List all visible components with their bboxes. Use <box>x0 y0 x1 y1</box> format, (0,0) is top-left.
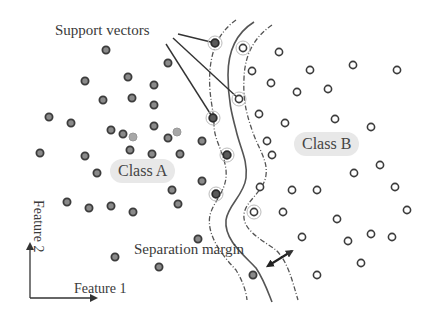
class-b-point <box>393 66 400 73</box>
class-b-point <box>350 169 357 176</box>
class-b-point <box>248 67 255 74</box>
class-a-point <box>176 150 183 157</box>
class-a-point <box>107 126 114 133</box>
class-b-support-vector <box>250 208 257 215</box>
class-a-point <box>126 146 133 153</box>
class-a-support-vector <box>223 151 231 159</box>
class-a-point <box>150 81 157 88</box>
class-a-point <box>128 94 135 101</box>
class-a-point <box>174 200 181 207</box>
class-b-point <box>255 110 262 117</box>
class-b-point <box>288 186 295 193</box>
support-vectors-label: Support vectors <box>55 22 150 39</box>
class-a-point <box>99 96 106 103</box>
class-a-point <box>119 130 126 137</box>
class-b-point <box>388 233 395 240</box>
class-a-point <box>249 271 256 278</box>
class-b-point <box>306 66 313 73</box>
class-b-point <box>256 183 263 190</box>
y-axis-label: Feature 2 <box>31 200 46 252</box>
class-a-point <box>111 253 118 260</box>
class-b-point <box>268 151 275 158</box>
class-b-label: Class B <box>294 132 359 156</box>
class-a-point <box>36 149 43 156</box>
class-a-point <box>198 177 205 184</box>
class-b-point <box>263 137 270 144</box>
class-a-support-vector <box>209 114 217 122</box>
svm-diagram: Feature 1 Feature 2 Support vectors Clas… <box>0 0 434 320</box>
class-b-point <box>367 230 374 237</box>
class-a-point <box>148 150 155 157</box>
separation-margin-label: Separation margin <box>134 241 244 258</box>
class-a-point <box>168 186 175 193</box>
class-a-point <box>155 263 162 270</box>
class-a-point <box>150 122 157 129</box>
class-b-point <box>344 237 351 244</box>
class-a-point-light <box>173 128 181 136</box>
class-a-point <box>81 77 88 84</box>
class-a-label: Class A <box>110 159 175 183</box>
class-a-point <box>45 113 52 120</box>
class-a-point <box>81 152 88 159</box>
class-b-point <box>275 48 282 55</box>
class-b-point <box>298 233 305 240</box>
class-b-point <box>281 119 288 126</box>
class-a-point <box>102 46 109 53</box>
class-a-point <box>67 119 74 126</box>
class-a-point <box>164 59 171 66</box>
class-a-point <box>198 137 205 144</box>
class-b-point <box>324 85 331 92</box>
class-a-point <box>85 204 92 211</box>
class-b-support-vector <box>235 95 242 102</box>
class-a-point <box>150 101 157 108</box>
class-b-point <box>357 259 364 266</box>
class-b-point <box>267 79 274 86</box>
separation-margin-arrow <box>271 251 292 264</box>
decision-boundary <box>226 22 272 302</box>
class-a-point-light <box>129 133 137 141</box>
class-b-point <box>403 206 410 213</box>
class-b-point <box>313 271 320 278</box>
margin-line-right <box>244 25 298 300</box>
class-b-point <box>313 186 320 193</box>
diagram-canvas: Feature 1 Feature 2 <box>0 0 434 320</box>
class-a-point <box>124 73 131 80</box>
class-b-point <box>349 61 356 68</box>
class-b-point <box>293 88 300 95</box>
class-a-point <box>107 202 114 209</box>
class-b-support-vector <box>239 44 246 51</box>
class-b-point <box>331 115 338 122</box>
class-a-point <box>93 169 100 176</box>
class-b-point <box>391 183 398 190</box>
class-b-point <box>376 161 383 168</box>
class-a-point <box>164 134 171 141</box>
class-a-point <box>129 208 136 215</box>
class-a-support-vector <box>212 190 220 198</box>
class-b-point <box>333 215 340 222</box>
class-b-point <box>367 123 374 130</box>
x-axis-label: Feature 1 <box>74 281 126 296</box>
class-b-points <box>248 48 410 278</box>
class-b-point <box>279 208 286 215</box>
class-a-point <box>63 198 70 205</box>
class-a-support-vector <box>211 39 219 47</box>
